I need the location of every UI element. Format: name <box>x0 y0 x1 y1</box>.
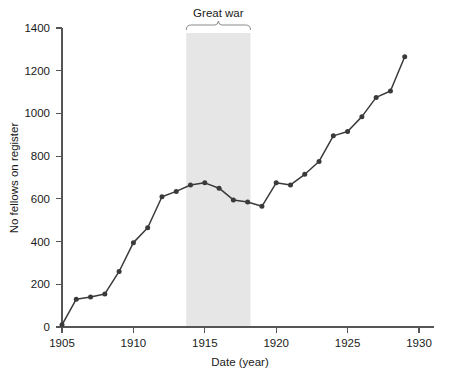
y-tick-label: 1200 <box>24 65 50 77</box>
data-point <box>188 182 193 187</box>
data-point <box>317 159 322 164</box>
x-tick-label: 1905 <box>49 337 75 349</box>
x-tick-label: 1910 <box>121 337 147 349</box>
y-tick-label: 1000 <box>24 107 50 119</box>
data-point <box>374 95 379 100</box>
x-tick-label: 1925 <box>335 337 361 349</box>
data-point <box>388 89 393 94</box>
y-tick-label: 0 <box>44 321 50 333</box>
y-axis-tick-labels: 0 200 400 600 800 1000 1200 1400 <box>24 22 50 333</box>
y-axis-title: No fellows on register <box>8 123 20 234</box>
data-point <box>288 182 293 187</box>
data-point <box>331 133 336 138</box>
data-point <box>402 54 407 59</box>
y-tick-label: 200 <box>31 278 50 290</box>
x-axis-ticks <box>62 327 419 333</box>
x-axis-title: Date (year) <box>211 356 269 368</box>
data-point <box>231 197 236 202</box>
y-tick-label: 400 <box>31 236 50 248</box>
y-tick-label: 800 <box>31 150 50 162</box>
data-point <box>259 204 264 209</box>
great-war-label: Great war <box>193 7 244 19</box>
data-point <box>174 189 179 194</box>
data-point <box>102 291 107 296</box>
x-tick-label: 1930 <box>406 337 432 349</box>
y-axis-ticks <box>56 28 62 327</box>
great-war-brace <box>186 21 250 30</box>
y-tick-label: 600 <box>31 193 50 205</box>
data-point <box>74 297 79 302</box>
data-point <box>159 194 164 199</box>
data-point <box>145 225 150 230</box>
data-point <box>359 114 364 119</box>
data-point <box>245 200 250 205</box>
x-tick-label: 1915 <box>192 337 218 349</box>
great-war-shaded-band <box>186 33 250 327</box>
data-point <box>60 322 65 327</box>
data-point <box>202 180 207 185</box>
y-tick-label: 1400 <box>24 22 50 34</box>
x-tick-label: 1920 <box>263 337 289 349</box>
chart-container: Great war 0 200 400 600 800 1000 1200 14… <box>0 0 467 371</box>
line-chart: Great war 0 200 400 600 800 1000 1200 14… <box>0 0 467 371</box>
data-point <box>131 240 136 245</box>
data-point <box>117 269 122 274</box>
data-point <box>217 186 222 191</box>
data-point <box>88 295 93 300</box>
data-point <box>274 180 279 185</box>
x-axis-tick-labels: 1905 1910 1915 1920 1925 1930 <box>49 337 432 349</box>
data-point <box>302 172 307 177</box>
data-point <box>345 129 350 134</box>
